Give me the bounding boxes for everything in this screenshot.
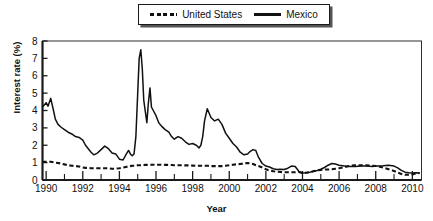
x-tick-label: 2010 — [401, 183, 424, 194]
data-series-group — [43, 50, 420, 175]
plot-border — [43, 41, 422, 180]
y-tick-label: 1 — [32, 157, 38, 168]
x-tick-label: 1998 — [182, 183, 205, 194]
chart-figure: United States Mexico Interest rate (%) Y… — [0, 0, 433, 221]
x-tick-label: 1992 — [72, 183, 95, 194]
x-tick-label: 1996 — [145, 183, 168, 194]
plot-frame — [43, 41, 422, 180]
plot-area: 876543210 199019921994199619982000200220… — [0, 0, 433, 221]
y-tick-label: 8 — [32, 36, 38, 47]
x-tick-label: 2008 — [365, 183, 388, 194]
y-axis-ticks: 876543210 — [32, 36, 48, 186]
x-tick-label: 2004 — [291, 183, 314, 194]
y-tick-label: 7 — [32, 53, 38, 64]
x-tick-label: 1990 — [35, 183, 58, 194]
series-line-united-states — [43, 162, 420, 175]
y-tick-label: 3 — [32, 122, 38, 133]
y-tick-label: 5 — [32, 88, 38, 99]
y-tick-label: 6 — [32, 70, 38, 81]
x-tick-label: 2002 — [255, 183, 278, 194]
x-axis-ticks: 1990199219941996199820002002200420062008… — [35, 171, 424, 194]
y-tick-label: 4 — [32, 105, 38, 116]
series-line-mexico — [43, 50, 420, 173]
y-tick-label: 2 — [32, 140, 38, 151]
x-tick-label: 1994 — [108, 183, 131, 194]
x-tick-label: 2006 — [328, 183, 351, 194]
x-tick-label: 2000 — [218, 183, 241, 194]
chart-svg: 876543210 199019921994199619982000200220… — [0, 0, 433, 221]
